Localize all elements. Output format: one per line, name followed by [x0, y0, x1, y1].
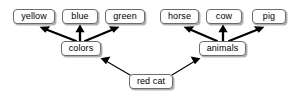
- node-label: pig: [263, 12, 275, 21]
- node-label: yellow: [21, 12, 47, 21]
- node-horse[interactable]: horse: [160, 9, 199, 24]
- node-label: green: [113, 12, 137, 21]
- edge-animals-to-horse: [184, 26, 218, 41]
- node-label: colors: [69, 44, 94, 53]
- node-label: blue: [71, 12, 88, 21]
- node-label: animals: [207, 44, 239, 53]
- node-green[interactable]: green: [105, 9, 145, 24]
- edge-colors-to-blue: [75, 25, 84, 42]
- node-pig[interactable]: pig: [252, 9, 286, 24]
- edge-colors-to-yellow: [40, 26, 77, 41]
- node-label: horse: [168, 12, 191, 21]
- node-red-cat[interactable]: red cat: [129, 74, 173, 89]
- node-colors[interactable]: colors: [61, 41, 101, 56]
- edge-animals-to-cow: [218, 25, 227, 42]
- node-yellow[interactable]: yellow: [13, 9, 55, 24]
- node-label: cow: [216, 12, 232, 21]
- edge-animals-to-pig: [229, 26, 265, 41]
- edge-redcat-to-colors: [101, 57, 131, 75]
- edge-redcat-to-animals: [172, 57, 201, 75]
- node-animals[interactable]: animals: [199, 41, 246, 56]
- diagram-canvas: yellow blue green horse cow pig colors a…: [0, 0, 301, 97]
- node-blue[interactable]: blue: [62, 9, 98, 24]
- node-cow[interactable]: cow: [206, 9, 242, 24]
- node-label: red cat: [137, 77, 165, 86]
- edge-colors-to-green: [85, 26, 120, 41]
